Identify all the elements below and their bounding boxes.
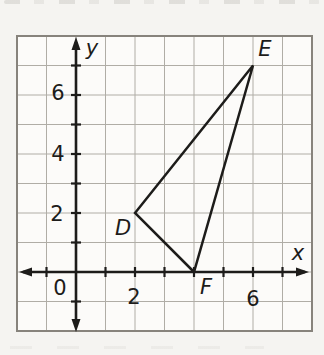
x-tick-label-2: 2 — [127, 285, 140, 309]
y-tick-label-2: 2 — [50, 202, 63, 226]
vertex-label-f: F — [200, 275, 213, 299]
x-axis-label: x — [291, 241, 305, 265]
origin-tick-label: 0 — [53, 276, 66, 300]
x-tick-label-6: 6 — [246, 287, 259, 311]
vertex-label-d: D — [115, 216, 131, 240]
y-axis-label: y — [85, 36, 99, 60]
y-tick-label-4: 4 — [51, 142, 64, 166]
vertex-label-e: E — [258, 37, 272, 61]
scanned-figure-page: y x 0 2 6 6 4 2 D E F — [0, 0, 324, 355]
coordinate-plane-figure: y x 0 2 6 6 4 2 D E F — [0, 0, 324, 355]
y-tick-label-6: 6 — [51, 81, 64, 105]
